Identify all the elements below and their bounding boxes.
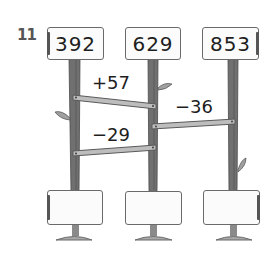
top-sign-1: 392: [47, 27, 104, 60]
answer-sign-3[interactable]: [203, 190, 260, 225]
operation-label-1: +57: [92, 72, 130, 93]
operation-label-2: −36: [175, 96, 213, 117]
top-sign-1-value: 392: [55, 32, 96, 56]
number-signpost-puzzle: 11: [0, 0, 278, 254]
top-sign-2-value: 629: [132, 32, 173, 56]
post-bases: [56, 224, 252, 240]
operation-label-3: −29: [92, 124, 130, 145]
sign-edge-mark: [47, 195, 50, 220]
sign-edge-mark: [256, 32, 259, 55]
top-sign-2: 629: [125, 27, 181, 60]
top-sign-3: 853: [202, 27, 259, 60]
top-sign-3-value: 853: [210, 32, 251, 56]
sign-edge-mark: [47, 32, 50, 55]
sign-edge-mark: [257, 195, 260, 220]
answer-sign-1[interactable]: [47, 190, 103, 225]
answer-sign-2[interactable]: [125, 191, 182, 225]
